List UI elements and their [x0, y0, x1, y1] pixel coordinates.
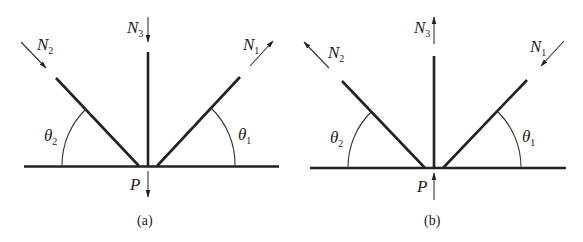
member-1-right — [157, 77, 240, 166]
n2-label: N2 — [327, 43, 344, 64]
n2-arrow-icon — [304, 42, 329, 68]
p-label: P — [129, 175, 140, 194]
n3-label: N3 — [413, 18, 430, 39]
theta2-label: θ2 — [44, 126, 57, 147]
theta1-arc — [211, 108, 235, 166]
theta2-label: θ2 — [330, 128, 343, 149]
panel-b: N3 N2 N1 θ2 θ1 P (b) — [304, 17, 566, 229]
panel-a: N3 N2 N1 θ2 θ1 P (a) — [21, 17, 279, 229]
member-2-left — [56, 78, 139, 166]
caption-b: (b) — [424, 213, 441, 229]
theta2-arc — [348, 112, 371, 168]
member-1-right — [443, 80, 527, 168]
n1-label: N1 — [242, 35, 259, 56]
theta1-arc — [497, 111, 521, 168]
theta2-arc — [62, 109, 86, 166]
member-2-left — [342, 81, 425, 168]
n1-label: N1 — [529, 37, 546, 58]
n3-label: N3 — [126, 18, 143, 39]
p-label: P — [416, 177, 427, 196]
caption-a: (a) — [137, 213, 153, 229]
n2-label: N2 — [36, 35, 53, 56]
theta1-label: θ1 — [238, 125, 251, 146]
force-diagram: N3 N2 N1 θ2 θ1 P (a) N3 N2 N1 θ2 θ1 P (b… — [0, 0, 583, 242]
theta1-label: θ1 — [522, 127, 535, 148]
